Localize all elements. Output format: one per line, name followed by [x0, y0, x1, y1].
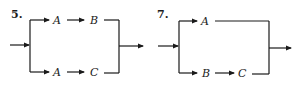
- diagram-number: 7.: [157, 8, 168, 21]
- diagram-5: 5. A B A C: [10, 8, 143, 79]
- diagram-number: 5.: [11, 8, 22, 21]
- node-a-bottom: A: [52, 66, 61, 79]
- node-b: B: [89, 14, 98, 27]
- node-c: C: [238, 67, 247, 80]
- diagram-7: 7. A B C: [157, 8, 291, 80]
- node-a-top: A: [52, 14, 61, 27]
- reliability-diagrams: 5. A B A C 7. A B C: [0, 0, 298, 85]
- node-c: C: [90, 66, 99, 79]
- node-a: A: [200, 15, 209, 28]
- node-b: B: [201, 67, 210, 80]
